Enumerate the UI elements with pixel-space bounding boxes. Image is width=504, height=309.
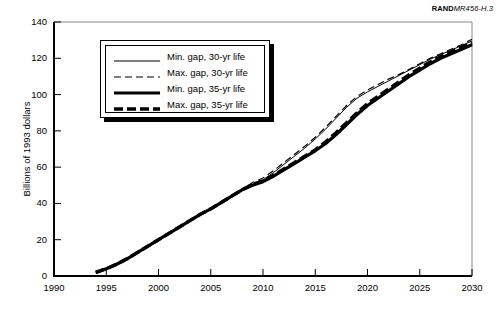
legend-inner-frame: Min. gap, 30-yr life Max. gap, 30-yr lif… [105,45,265,113]
legend-label: Max. gap, 30-yr life [167,68,248,78]
x-axis-tick-label: 2010 [243,283,283,293]
figure-container: RANDMR456-H.3 Billions of 1993 dollars 0… [0,0,504,309]
y-axis-tick-label: 60 [17,162,47,172]
y-axis-tick-label: 140 [17,17,47,27]
legend-label: Min. gap, 35-yr life [167,84,245,94]
legend-label: Min. gap, 30-yr life [167,52,245,62]
y-axis-tick-label: 0 [17,271,47,281]
legend-label: Max. gap, 35-yr life [167,100,248,110]
chart-legend: Min. gap, 30-yr life Max. gap, 30-yr lif… [100,40,270,118]
legend-item[interactable]: Min. gap, 35-yr life [106,81,264,97]
x-axis-tick-label: 2015 [295,283,335,293]
x-axis-tick-label: 2030 [452,283,492,293]
legend-swatch-thick-solid [114,84,160,94]
x-axis-tick-label: 2005 [191,283,231,293]
legend-item[interactable]: Min. gap, 30-yr life [106,49,264,65]
y-axis-tick-label: 80 [17,126,47,136]
legend-swatch-thin-solid [114,52,160,62]
y-axis-tick-label: 20 [17,235,47,245]
legend-swatch-thick-dashed [114,100,160,110]
legend-swatch-thin-dashed [114,68,160,78]
x-axis-tick-label: 2000 [139,283,179,293]
x-axis-tick-label: 1990 [34,283,74,293]
x-axis-tick-label: 2020 [348,283,388,293]
y-axis-tick-label: 100 [17,90,47,100]
y-axis-tick-label: 40 [17,198,47,208]
x-axis-tick-label: 1995 [86,283,126,293]
legend-item[interactable]: Max. gap, 35-yr life [106,97,264,113]
y-axis-tick-label: 120 [17,53,47,63]
x-axis-tick-label: 2025 [400,283,440,293]
legend-item[interactable]: Max. gap, 30-yr life [106,65,264,81]
